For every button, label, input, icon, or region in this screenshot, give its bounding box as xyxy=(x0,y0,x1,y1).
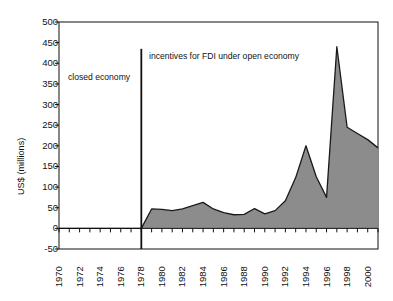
x-tick-label: 1970 xyxy=(54,261,64,293)
x-tick-label: 1998 xyxy=(342,261,352,293)
x-tick-label: 1980 xyxy=(157,261,167,293)
x-tick-label: 1972 xyxy=(75,261,85,293)
fdi-area-chart: 500450400350300250200150100500-50 197019… xyxy=(0,0,393,301)
x-tick-label: 1986 xyxy=(219,261,229,293)
x-tick-label: 1994 xyxy=(301,261,311,293)
x-axis-tick-labels: 1970197219741976197819801982198419861988… xyxy=(0,0,393,301)
x-tick-label: 1988 xyxy=(239,261,249,293)
y-axis-title: US$ (millions) xyxy=(16,138,26,195)
x-tick-label: 1974 xyxy=(95,261,105,293)
x-tick-label: 1978 xyxy=(137,261,147,293)
x-tick-label: 1996 xyxy=(322,261,332,293)
annotation-closed-economy: closed economy xyxy=(68,73,130,82)
x-tick-label: 2000 xyxy=(363,261,373,293)
x-tick-label: 1984 xyxy=(198,261,208,293)
x-tick-label: 1982 xyxy=(178,261,188,293)
x-tick-label: 1976 xyxy=(116,261,126,293)
annotation-open-economy: incentives for FDI under open economy xyxy=(149,52,299,61)
x-tick-label: 1992 xyxy=(281,261,291,293)
x-tick-label: 1990 xyxy=(260,261,270,293)
